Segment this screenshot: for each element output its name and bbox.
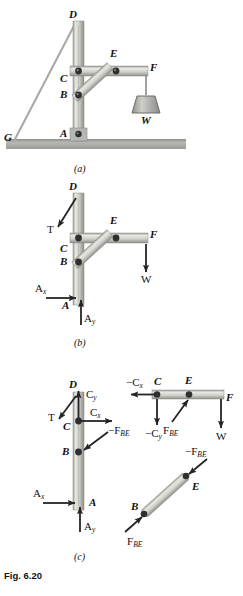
c-member-BE-body [141, 473, 189, 517]
panel-b-caption: (b) [74, 337, 86, 348]
label-c-force-Ax: Ax [33, 488, 44, 500]
label-c-force-Cy: Cy [86, 389, 97, 401]
label-b-D: D [69, 181, 77, 192]
c-force-minusFBE2-arrow [189, 459, 207, 474]
label-a-C: C [60, 73, 67, 84]
label-c-B: B [62, 446, 69, 457]
label-c-force-Cx: Cx [90, 407, 101, 419]
pin-A [75, 131, 81, 137]
label-c-force-FBE: FBE [163, 425, 178, 437]
label-c-force-minus-Cy: −Cy [145, 428, 162, 440]
label-b-T: T [47, 224, 54, 235]
label-a-G: G [4, 132, 12, 143]
pin-E-highlight [114, 69, 116, 71]
label-c-D: D [69, 379, 77, 390]
c-force-minusFBE-arrow [84, 432, 108, 450]
label-c-force-minus-Cx: −Cx [126, 377, 143, 389]
label-b-A: A [62, 300, 69, 311]
pin-E [113, 68, 120, 75]
label-c-E3: E [192, 481, 199, 492]
pin-C [75, 68, 82, 75]
c-member-BE [125, 459, 207, 532]
pin-A-highlight [77, 132, 79, 134]
label-c-force-W: W [216, 431, 226, 442]
figure-caption: Fig. 6.20 [4, 570, 42, 581]
ground-surface [6, 139, 186, 149]
weight-block-W [132, 96, 160, 113]
figure-6-20 [0, 0, 243, 596]
pin-B [75, 92, 82, 99]
label-c-force-minus-FBE: −FBE [108, 425, 129, 437]
label-b-C: C [60, 243, 67, 254]
label-b-B: B [60, 256, 67, 267]
b-pin-B [75, 259, 82, 266]
pin-B-highlight [77, 93, 79, 95]
label-c-E2: E [185, 375, 192, 386]
c-pin-E2 [186, 391, 193, 398]
panel-a-caption: (a) [74, 163, 86, 174]
label-c-C: C [63, 421, 70, 432]
label-b-F: F [150, 229, 157, 240]
label-a-F: F [150, 62, 157, 73]
label-c-C2: C [154, 376, 161, 387]
label-a-B: B [60, 89, 67, 100]
label-a-E: E [110, 48, 117, 59]
c-pin-B [75, 449, 82, 456]
c-member-CEF [131, 390, 224, 428]
label-c-F: F [226, 392, 233, 403]
label-b-force-Ay: Ay [84, 313, 95, 325]
label-a-A: A [60, 128, 67, 139]
label-c-force-Ay: Ay [84, 521, 95, 533]
label-c-T: T [48, 412, 55, 423]
label-b-force-Ax: Ax [35, 283, 46, 295]
panel-c-caption: (c) [74, 551, 85, 562]
b-pin-C [75, 235, 82, 242]
pin-C-highlight [77, 69, 79, 71]
label-c-A: A [89, 497, 96, 508]
label-a-W: W [141, 115, 151, 126]
label-a-D: D [69, 9, 77, 20]
label-c-force-FBE2: FBE [127, 536, 142, 548]
label-c-B2: B [131, 501, 138, 512]
label-b-E: E [110, 215, 117, 226]
c-pin-E3 [183, 473, 190, 480]
c-force-FBE2-arrow [125, 517, 142, 532]
label-c-force-minus-FBE2: −FBE [185, 446, 206, 458]
c-force-FBE-arrow [172, 400, 188, 422]
panel-a [6, 21, 186, 149]
label-b-W: W [141, 274, 151, 285]
b-pin-E [113, 235, 120, 242]
c-pin-B2 [141, 511, 148, 518]
